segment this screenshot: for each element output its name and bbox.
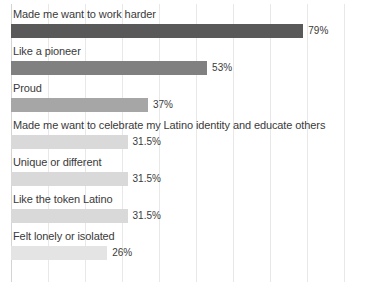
bar-row: Felt lonely or isolated26%: [11, 226, 360, 263]
bar-value-label: 31.5%: [133, 172, 161, 186]
bar-value-label: 31.5%: [133, 209, 161, 223]
bar-row: Unique or different31.5%: [11, 152, 360, 189]
bar: [11, 209, 128, 223]
horizontal-bar-chart: Made me want to work harder79%Like a pio…: [0, 0, 368, 299]
category-label: Like a pioneer: [13, 42, 81, 60]
bar-track: 31.5%: [11, 209, 360, 223]
bar-value-label: 79%: [308, 24, 328, 38]
plot-area: Made me want to work harder79%Like a pio…: [11, 4, 360, 282]
bar-row: Proud37%: [11, 78, 360, 115]
bar-row: Like a pioneer53%: [11, 41, 360, 78]
bar-track: 26%: [11, 246, 360, 260]
bar-value-label: 31.5%: [133, 135, 161, 149]
bar-value-label: 37%: [153, 98, 173, 112]
bar-row: Made me want to work harder79%: [11, 4, 360, 41]
bar: [11, 61, 207, 75]
bar-track: 37%: [11, 98, 360, 112]
category-label: Made me want to celebrate my Latino iden…: [13, 116, 325, 134]
bar-track: 31.5%: [11, 135, 360, 149]
bar-rows: Made me want to work harder79%Like a pio…: [11, 4, 360, 282]
bar-track: 31.5%: [11, 172, 360, 186]
category-label: Like the token Latino: [13, 190, 112, 208]
bar: [11, 246, 107, 260]
category-label: Made me want to work harder: [13, 5, 156, 23]
bar-row: Made me want to celebrate my Latino iden…: [11, 115, 360, 152]
bar-track: 53%: [11, 61, 360, 75]
bar: [11, 24, 303, 38]
bar: [11, 135, 128, 149]
category-label: Felt lonely or isolated: [13, 227, 115, 245]
bar-value-label: 26%: [112, 246, 132, 260]
category-label: Proud: [13, 79, 42, 97]
bar-row: Like the token Latino31.5%: [11, 189, 360, 226]
category-label: Unique or different: [13, 153, 101, 171]
bar: [11, 98, 148, 112]
bar-track: 79%: [11, 24, 360, 38]
bar-value-label: 53%: [212, 61, 232, 75]
bar: [11, 172, 128, 186]
